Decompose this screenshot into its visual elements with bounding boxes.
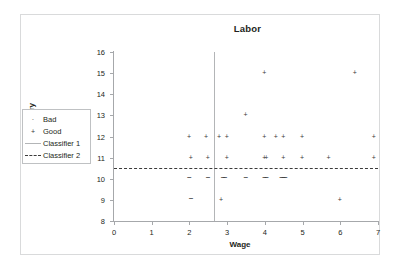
classifier-1-line xyxy=(214,52,215,221)
data-point-good: + xyxy=(281,133,285,140)
data-point-good: + xyxy=(300,133,304,140)
x-tick-label: 7 xyxy=(368,228,388,237)
data-point-good: + xyxy=(262,69,266,76)
x-tick-label: 1 xyxy=(142,228,162,237)
data-point-bad: – xyxy=(223,173,227,181)
classifier-2-line xyxy=(114,168,378,169)
dashed-line-icon xyxy=(25,155,41,156)
data-point-good: + xyxy=(262,133,266,140)
data-point-good: + xyxy=(244,111,248,118)
data-point-good: + xyxy=(274,133,278,140)
x-tick-mark xyxy=(189,221,190,225)
chart-title: Labor xyxy=(110,23,385,34)
legend-item-label: Classifier 2 xyxy=(43,151,80,160)
y-tick-label: 9 xyxy=(83,196,105,205)
legend-box: ·Bad+GoodClassifier 1Classifier 2 xyxy=(22,109,91,164)
data-point-good: + xyxy=(189,154,193,161)
plot-area: +++++++++++++++++++++++––––––––––– xyxy=(114,52,378,221)
x-tick-mark xyxy=(303,221,304,225)
data-point-good: + xyxy=(264,154,268,161)
data-point-good: + xyxy=(353,69,357,76)
figure-canvas: Labor Statutory Wage 01234567 8910111213… xyxy=(0,0,401,272)
x-tick-label: 2 xyxy=(179,228,199,237)
data-point-good: + xyxy=(206,154,210,161)
y-tick-label: 16 xyxy=(83,48,105,57)
data-point-bad: – xyxy=(264,173,268,181)
data-point-good: + xyxy=(338,196,342,203)
data-point-good: + xyxy=(300,154,304,161)
y-tick-label: 10 xyxy=(83,175,105,184)
x-tick-label: 3 xyxy=(217,228,237,237)
x-tick-label: 0 xyxy=(104,228,124,237)
legend-item-classifier-2[interactable]: Classifier 2 xyxy=(23,149,90,161)
x-tick-label: 5 xyxy=(293,228,313,237)
data-point-good: + xyxy=(204,133,208,140)
legend-item-good[interactable]: +Good xyxy=(23,125,90,137)
y-tick-label: 8 xyxy=(83,217,105,226)
data-point-good: + xyxy=(217,133,221,140)
data-point-good: + xyxy=(372,154,376,161)
x-tick-mark xyxy=(265,221,266,225)
y-tick-mark xyxy=(110,221,114,222)
y-tick-label: 14 xyxy=(83,90,105,99)
legend-item-bad[interactable]: ·Bad xyxy=(23,113,90,125)
x-tick-mark xyxy=(340,221,341,225)
legend-item-classifier-1[interactable]: Classifier 1 xyxy=(23,137,90,149)
data-point-good: + xyxy=(225,133,229,140)
x-tick-mark xyxy=(114,221,115,225)
data-point-good: + xyxy=(219,196,223,203)
data-point-bad: – xyxy=(283,173,287,181)
x-tick-label: 4 xyxy=(255,228,275,237)
data-point-good: + xyxy=(187,133,191,140)
x-axis-line xyxy=(113,221,379,222)
data-point-bad: – xyxy=(244,173,248,181)
data-point-good: + xyxy=(372,133,376,140)
legend-item-label: Good xyxy=(43,127,61,136)
data-point-good: + xyxy=(281,154,285,161)
x-tick-mark xyxy=(378,221,379,225)
data-point-bad: – xyxy=(206,173,210,181)
x-tick-mark xyxy=(152,221,153,225)
data-point-bad: – xyxy=(189,194,193,202)
plus-marker-icon: + xyxy=(23,128,43,135)
data-point-good: + xyxy=(225,154,229,161)
data-point-good: + xyxy=(326,154,330,161)
legend-item-label: Bad xyxy=(43,115,56,124)
legend-item-label: Classifier 1 xyxy=(43,139,80,148)
y-tick-label: 15 xyxy=(83,69,105,78)
x-tick-mark xyxy=(227,221,228,225)
x-tick-label: 6 xyxy=(330,228,350,237)
dot-marker-icon: · xyxy=(23,116,43,123)
x-axis-label: Wage xyxy=(180,240,300,249)
solid-line-icon xyxy=(25,143,41,144)
data-point-bad: – xyxy=(187,173,191,181)
